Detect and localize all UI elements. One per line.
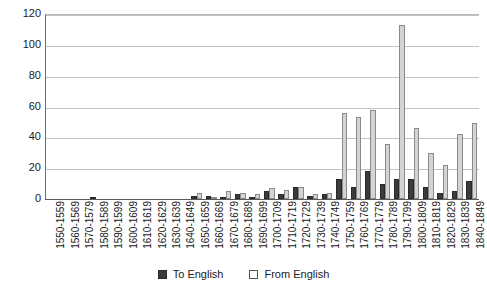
bar-group	[59, 14, 73, 199]
y-tick-label: 100	[1, 39, 41, 50]
bar-group	[305, 14, 319, 199]
legend-swatch-to-english-icon	[158, 270, 167, 279]
legend-label-to-english: To English	[173, 268, 224, 280]
y-tick-label: 120	[1, 8, 41, 19]
x-tick-label: 1740-1749	[331, 201, 341, 249]
bar-group	[74, 14, 88, 199]
bar-from-english	[298, 187, 303, 199]
bar-group	[436, 14, 450, 199]
x-tick-label: 1680-1689	[244, 201, 254, 249]
x-tick-label: 1690-1699	[259, 201, 269, 249]
x-tick-label: 1550-1559	[56, 201, 66, 249]
bars-layer	[45, 14, 479, 199]
bar-from-english	[197, 193, 202, 199]
x-tick-label: 1700-1709	[273, 201, 283, 249]
bar-from-english	[385, 144, 390, 200]
legend-swatch-from-english-icon	[249, 270, 258, 279]
y-tick-label: 60	[1, 101, 41, 112]
bar-from-english	[457, 134, 462, 199]
bar-group	[334, 14, 348, 199]
bar-group	[465, 14, 479, 199]
bar-from-english	[342, 113, 347, 199]
legend-label-from-english: From English	[264, 268, 329, 280]
x-tick-label: 1560-1569	[71, 201, 81, 249]
x-tick-label: 1610-1619	[143, 201, 153, 249]
bar-group	[407, 14, 421, 199]
x-tick-label: 1770-1779	[375, 201, 385, 249]
bar-from-english	[414, 128, 419, 199]
bar-group	[88, 14, 102, 199]
bar-group	[262, 14, 276, 199]
chart-legend: To English From English	[0, 268, 487, 280]
x-tick-label: 1730-1739	[317, 201, 327, 249]
bar-from-english	[443, 165, 448, 199]
bar-from-english	[240, 193, 245, 199]
x-tick-label: 1760-1769	[360, 201, 370, 249]
x-tick-label: 1580-1589	[100, 201, 110, 249]
x-tick-label: 1600-1609	[129, 201, 139, 249]
bar-from-english	[313, 194, 318, 199]
bar-group	[219, 14, 233, 199]
bar-from-english	[255, 194, 260, 199]
bar-group	[378, 14, 392, 199]
legend-item-from-english: From English	[249, 268, 329, 280]
x-tick-label: 1750-1759	[346, 201, 356, 249]
x-tick-label: 1670-1679	[230, 201, 240, 249]
bar-group	[45, 14, 59, 199]
x-tick-label: 1720-1729	[302, 201, 312, 249]
bar-from-english	[370, 110, 375, 199]
bar-from-english	[472, 123, 477, 199]
bar-group	[320, 14, 334, 199]
bar-from-english	[399, 25, 404, 199]
x-tick-label: 1620-1629	[158, 201, 168, 249]
bar-from-english	[428, 153, 433, 199]
bar-from-english	[226, 191, 231, 199]
bar-group	[276, 14, 290, 199]
bar-from-english	[211, 197, 216, 199]
bar-group	[291, 14, 305, 199]
bar-group	[450, 14, 464, 199]
x-tick-label: 1590-1599	[114, 201, 124, 249]
y-axis: 020406080100120	[0, 0, 41, 290]
bar-group	[161, 14, 175, 199]
x-tick-label: 1830-1839	[461, 201, 471, 249]
bar-group	[190, 14, 204, 199]
x-tick-label: 1800-1809	[418, 201, 428, 249]
x-tick-label: 1810-1819	[432, 201, 442, 249]
bar-from-english	[284, 190, 289, 199]
legend-item-to-english: To English	[158, 268, 224, 280]
bar-group	[421, 14, 435, 199]
bar-from-english	[356, 117, 361, 199]
bar-group	[117, 14, 131, 199]
bar-group	[132, 14, 146, 199]
bar-group	[175, 14, 189, 199]
x-tick-label: 1570-1579	[85, 201, 95, 249]
x-tick-label: 1660-1669	[215, 201, 225, 249]
bar-group	[204, 14, 218, 199]
x-tick-label: 1640-1649	[186, 201, 196, 249]
bar-chart: 020406080100120 1550-15591560-15691570-1…	[0, 0, 487, 290]
y-tick-label: 80	[1, 70, 41, 81]
bar-group	[392, 14, 406, 199]
bar-group	[349, 14, 363, 199]
x-tick-label: 1630-1639	[172, 201, 182, 249]
y-tick-label: 20	[1, 162, 41, 173]
y-tick-label: 40	[1, 131, 41, 142]
bar-from-english	[269, 188, 274, 199]
bar-from-english	[327, 193, 332, 199]
x-tick-label: 1790-1799	[403, 201, 413, 249]
bar-group	[146, 14, 160, 199]
x-tick-label: 1710-1719	[288, 201, 298, 249]
x-axis: 1550-15591560-15691570-15791580-15891590…	[45, 201, 479, 263]
x-tick-label: 1650-1659	[201, 201, 211, 249]
bar-group	[233, 14, 247, 199]
bar-group	[248, 14, 262, 199]
bar-to-english	[90, 197, 95, 199]
bar-group	[103, 14, 117, 199]
x-tick-label: 1840-1849	[476, 201, 486, 249]
x-tick-label: 1820-1829	[447, 201, 457, 249]
x-tick-label: 1780-1789	[389, 201, 399, 249]
y-tick-label: 0	[1, 193, 41, 204]
bar-group	[363, 14, 377, 199]
